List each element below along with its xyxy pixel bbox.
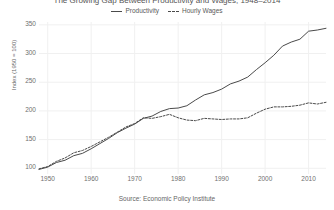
y-tick-100: 100 [2, 164, 36, 171]
legend-item-productivity[interactable]: Productivity [111, 8, 159, 15]
y-tick-150: 150 [2, 136, 36, 143]
legend-label-hourly-wages: Hourly Wages [182, 8, 223, 15]
y-tick-200: 200 [2, 107, 36, 114]
legend-line-solid-icon [111, 11, 122, 12]
x-tick-2000: 2000 [245, 176, 285, 183]
y-tick-250: 250 [2, 78, 36, 85]
x-tick-1960: 1960 [71, 176, 111, 183]
chart-legend: Productivity Hourly Wages [0, 8, 334, 15]
series-line-hourly-wages [39, 102, 326, 169]
x-tick-1970: 1970 [115, 176, 155, 183]
chart-figure: The Growing Gap Between Productivity and… [0, 0, 334, 210]
y-tick-300: 300 [2, 50, 36, 57]
data-series-layer [39, 22, 326, 174]
x-tick-1950: 1950 [28, 176, 68, 183]
plot-area [39, 22, 326, 174]
chart-title: The Growing Gap Between Productivity and… [0, 0, 334, 5]
series-line-productivity [39, 28, 326, 169]
y-tick-350: 350 [2, 21, 36, 28]
y-axis-tick-labels: 100150200250300350 [0, 22, 36, 174]
x-axis-tick-labels: 1950196019701980199020002010 [39, 176, 326, 188]
source-caption: Source: Economic Policy Institute [0, 195, 334, 202]
legend-line-dashed-icon [168, 11, 179, 12]
x-tick-1990: 1990 [202, 176, 242, 183]
x-tick-1980: 1980 [158, 176, 198, 183]
legend-label-productivity: Productivity [125, 8, 159, 15]
legend-item-hourly-wages[interactable]: Hourly Wages [168, 8, 223, 15]
x-tick-2010: 2010 [289, 176, 329, 183]
